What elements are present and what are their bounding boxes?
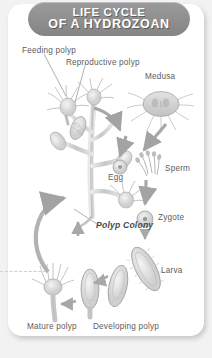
label-mature-polyp: Mature polyp bbox=[27, 322, 77, 331]
fertilization-arrow bbox=[145, 180, 146, 204]
label-polyp-colony: Polyp Colony bbox=[96, 220, 153, 230]
colony-return-arrow bbox=[36, 198, 64, 272]
sperm-art bbox=[134, 150, 161, 176]
label-medusa: Medusa bbox=[145, 72, 175, 81]
label-sperm: Sperm bbox=[165, 164, 190, 173]
title-line-2: OF A HYDROZOAN bbox=[48, 18, 169, 31]
label-zygote: Zygote bbox=[158, 213, 184, 222]
label-developing-polyp: Developing polyp bbox=[93, 322, 159, 331]
title-banner: LIFE CYCLE OF A HYDROZOAN bbox=[28, 2, 190, 36]
reproductive-polyp-art bbox=[67, 114, 89, 141]
label-larva: Larva bbox=[161, 266, 182, 275]
label-feeding-polyp: Feeding polyp bbox=[22, 46, 76, 55]
margin-dash-rule bbox=[0, 271, 46, 273]
illustration-root: Feeding polyp Reproductive polyp Medusa … bbox=[0, 0, 212, 358]
feeding-polyp-head-2 bbox=[78, 78, 114, 105]
label-reproductive-polyp: Reproductive polyp bbox=[66, 58, 140, 67]
page-card-inner: Feeding polyp Reproductive polyp Medusa … bbox=[8, 4, 204, 336]
egg-art bbox=[113, 160, 127, 174]
label-egg: Egg bbox=[108, 173, 123, 182]
medusa-art bbox=[127, 92, 194, 134]
page-card: Feeding polyp Reproductive polyp Medusa … bbox=[8, 4, 204, 336]
polyp-colony-art bbox=[47, 78, 146, 228]
developing-polyp-art bbox=[81, 264, 131, 317]
